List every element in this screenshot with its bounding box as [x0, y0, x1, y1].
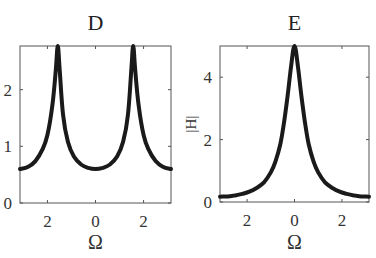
y-tick-label: 4: [204, 68, 213, 87]
data-line: [20, 46, 171, 169]
panel-title: D: [88, 10, 104, 35]
panel-title: E: [288, 10, 301, 35]
y-tick-label: 2: [4, 81, 13, 100]
panel-d: D 012 202 Ω: [4, 10, 172, 253]
axes-frame: [20, 46, 171, 203]
y-tick-label: 1: [4, 137, 13, 156]
x-tick-label: 0: [290, 211, 299, 230]
x-axis-label: Ω: [287, 231, 302, 253]
x-axis-label: Ω: [88, 231, 103, 253]
x-tick-label: 2: [43, 212, 52, 231]
y-tick-label: 0: [204, 193, 213, 212]
figure: D 012 202 Ω E 024 202 Ω |H|: [0, 0, 376, 258]
panel-e: E 024 202 Ω |H|: [183, 10, 369, 253]
x-tick-label: 0: [91, 212, 100, 231]
x-tick-label: 2: [338, 211, 347, 230]
y-axis-ticks: 024: [204, 68, 370, 212]
y-tick-label: 0: [4, 194, 13, 213]
y-tick-label: 2: [204, 131, 213, 150]
x-tick-label: 2: [139, 212, 148, 231]
y-axis-label: |H|: [183, 116, 199, 133]
x-tick-label: 2: [243, 211, 252, 230]
data-line: [220, 46, 369, 197]
axes-frame: [220, 46, 369, 202]
